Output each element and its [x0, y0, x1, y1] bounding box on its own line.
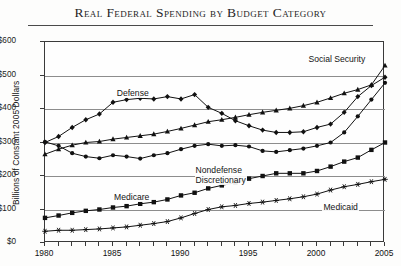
series-social-security — [42, 63, 387, 157]
x-axis-tick-label: 1980 — [24, 248, 64, 258]
x-axis-tick-label: 1985 — [92, 248, 132, 258]
x-axis-tick-label: 2000 — [296, 248, 336, 258]
series-label-discretionary: Discretionary — [195, 175, 247, 185]
y-axis-tick-label: $600 — [0, 36, 16, 45]
x-axis-tick-label: 2005 — [364, 248, 401, 258]
series-label-defense: Defense — [116, 88, 150, 98]
y-axis-tick-label: $400 — [0, 103, 16, 112]
y-axis-tick-label: $0 — [0, 237, 16, 246]
chart-figure: Real Federal Spending by Budget Category… — [0, 0, 401, 266]
series-label-medicare: Medicare — [113, 192, 150, 202]
y-axis-tick-label: $300 — [0, 137, 16, 146]
x-axis-tick-label: 1990 — [160, 248, 200, 258]
title-divider — [28, 25, 373, 26]
series-defense — [43, 74, 388, 145]
x-axis-tick-label: 1995 — [228, 248, 268, 258]
series-label-medicaid: Medicaid — [322, 202, 358, 212]
y-axis-tick-label: $500 — [0, 70, 16, 79]
y-axis-tick-label: $100 — [0, 204, 16, 213]
y-axis-tick-label: $200 — [0, 170, 16, 179]
series-layer — [45, 42, 385, 243]
series-label-nondefense: Nondefense — [195, 165, 243, 175]
chart-title: Real Federal Spending by Budget Category — [0, 5, 401, 21]
plot-area: DefenseSocial SecurityNondefenseDiscreti… — [44, 41, 384, 242]
series-label-social-security: Social Security — [307, 54, 366, 64]
